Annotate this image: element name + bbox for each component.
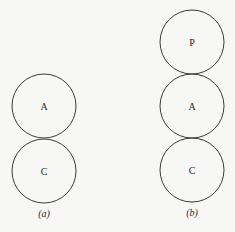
circle-b-A: A <box>160 74 224 138</box>
circle-label: C <box>189 165 196 176</box>
circle-a-A: A <box>12 74 76 138</box>
panel-b: P A C (b) <box>160 10 224 219</box>
circle-a-C: C <box>12 139 76 203</box>
circle-label: A <box>188 101 196 112</box>
circle-label: P <box>189 37 195 48</box>
circle-b-C: C <box>160 138 224 202</box>
circle-label: C <box>41 166 48 177</box>
panel-caption: (a) <box>38 208 50 220</box>
panel-caption: (b) <box>186 207 198 219</box>
panel-a: A C (a) <box>12 74 76 220</box>
circle-b-P: P <box>160 10 224 74</box>
circle-label: A <box>40 101 48 112</box>
diagram-canvas: A C (a) P A C (b) <box>0 0 235 232</box>
